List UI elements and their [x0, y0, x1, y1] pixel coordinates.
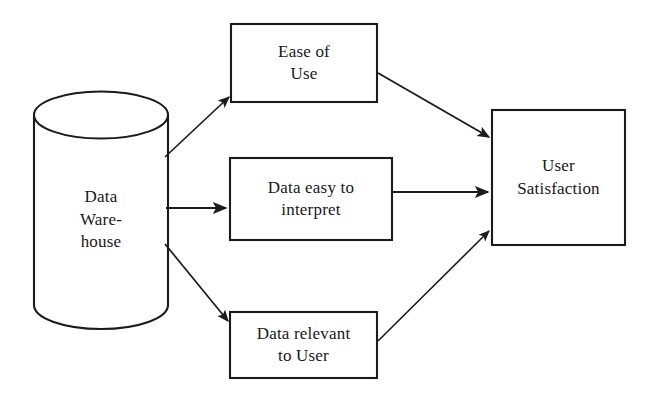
node-shape-data-relevant-to-user[interactable] [230, 312, 377, 378]
cylinder-body [34, 115, 168, 329]
node-shape-ease-of-use[interactable] [231, 24, 377, 102]
diagram-vector-layer [0, 0, 654, 402]
cylinder-top-ellipse [34, 92, 168, 139]
diagram-canvas: Data Ware- house Ease of Use Data easy t… [0, 0, 654, 402]
node-shape-user-satisfaction[interactable] [492, 110, 625, 245]
edge-warehouse-to-ease-of-use [165, 97, 229, 157]
edge-warehouse-to-data-relevant [165, 244, 228, 321]
node-shape-data-warehouse[interactable] [34, 92, 168, 330]
edge-ease-of-use-to-satisfaction [378, 73, 489, 137]
node-shape-data-easy-to-interpret[interactable] [230, 158, 392, 240]
edge-data-relevant-to-satisfaction [378, 231, 489, 341]
